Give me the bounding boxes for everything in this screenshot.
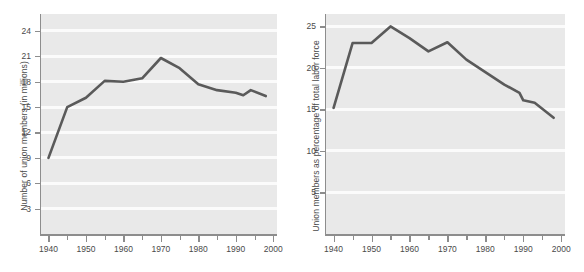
x-axis-tick-major — [198, 236, 199, 242]
x-axis-line — [325, 234, 566, 236]
x-axis-tick-major — [372, 236, 373, 242]
x-axis-tick-minor — [428, 236, 429, 240]
y-axis-tick-label: 20 — [294, 63, 316, 73]
x-axis-tick-major — [409, 236, 410, 242]
x-axis-tick-label: 1960 — [114, 244, 133, 254]
x-axis-tick-label: 1940 — [39, 244, 58, 254]
x-axis-tick-minor — [217, 236, 218, 240]
y-axis-tick-label: 25 — [294, 21, 316, 31]
series-polyline — [334, 26, 554, 117]
x-axis-tick-label: 1990 — [226, 244, 245, 254]
chart-panel-union-members: Number of union members (in millions) 36… — [0, 0, 292, 272]
data-line-union-members — [41, 14, 277, 234]
x-axis-tick-minor — [255, 236, 256, 240]
y-axis-tick-label: 15 — [9, 102, 31, 112]
series-polyline — [48, 58, 265, 158]
x-axis-tick-major — [86, 236, 87, 242]
y-axis-tick — [35, 56, 40, 57]
y-axis-tick — [320, 151, 325, 152]
y-axis-tick — [35, 132, 40, 133]
y-axis-tick-label: 10 — [294, 146, 316, 156]
y-axis-tick — [35, 209, 40, 210]
x-axis-tick-minor — [180, 236, 181, 240]
x-axis-tick-label: 1970 — [438, 244, 457, 254]
x-axis-tick-minor — [390, 236, 391, 240]
y-axis-tick — [320, 26, 325, 27]
x-axis-tick-minor — [105, 236, 106, 240]
x-axis-tick-major — [236, 236, 237, 242]
x-axis-line — [40, 234, 278, 236]
y-axis-tick-label: 15 — [294, 104, 316, 114]
x-axis-tick-major — [123, 236, 124, 242]
y-axis-tick — [35, 183, 40, 184]
y-axis-tick-label: 12 — [9, 127, 31, 137]
y-axis-tick — [35, 31, 40, 32]
x-axis-tick-minor — [466, 236, 467, 240]
chart-panel-union-percentage: Union members as percentage of total lab… — [292, 0, 584, 272]
x-axis-tick-minor — [542, 236, 543, 240]
plot-area-left: 3691215182124194019501960197019801990200… — [41, 14, 277, 234]
x-axis-tick-major — [485, 236, 486, 242]
x-axis-tick-major — [273, 236, 274, 242]
y-axis-tick — [35, 107, 40, 108]
x-axis-tick-label: 1940 — [324, 244, 343, 254]
x-axis-tick-label: 1990 — [514, 244, 533, 254]
union-membership-figure: Number of union members (in millions) 36… — [0, 0, 584, 272]
y-axis-tick-label: 24 — [9, 26, 31, 36]
y-axis-tick — [320, 192, 325, 193]
x-axis-tick-major — [523, 236, 524, 242]
x-axis-tick-label: 1950 — [76, 244, 95, 254]
x-axis-tick-major — [334, 236, 335, 242]
x-axis-tick-label: 1970 — [151, 244, 170, 254]
x-axis-tick-minor — [353, 236, 354, 240]
x-axis-tick-major — [447, 236, 448, 242]
y-axis-tick — [320, 68, 325, 69]
y-axis-tick-label: 5 — [294, 187, 316, 197]
x-axis-tick-minor — [142, 236, 143, 240]
x-axis-tick-label: 2000 — [552, 244, 571, 254]
y-axis-title: Union members as percentage of total lab… — [308, 0, 324, 272]
y-axis-tick-label: 3 — [9, 204, 31, 214]
y-axis-tick-label: 6 — [9, 178, 31, 188]
x-axis-tick-label: 1960 — [400, 244, 419, 254]
y-axis-tick — [320, 109, 325, 110]
x-axis-tick-minor — [504, 236, 505, 240]
x-axis-tick-label: 1980 — [189, 244, 208, 254]
x-axis-tick-label: 1950 — [362, 244, 381, 254]
x-axis-tick-label: 1980 — [476, 244, 495, 254]
y-axis-tick-label: 18 — [9, 77, 31, 87]
x-axis-tick-major — [48, 236, 49, 242]
x-axis-tick-minor — [67, 236, 68, 240]
y-axis-tick-label: 21 — [9, 51, 31, 61]
y-axis-tick — [35, 82, 40, 83]
x-axis-tick-major — [561, 236, 562, 242]
x-axis-tick-label: 2000 — [264, 244, 283, 254]
x-axis-tick-major — [161, 236, 162, 242]
y-axis-tick — [35, 158, 40, 159]
y-axis-tick-label: 9 — [9, 153, 31, 163]
plot-area-right: 5101520251940195019601970198019902000 — [326, 14, 565, 234]
data-line-union-percentage — [326, 14, 565, 234]
